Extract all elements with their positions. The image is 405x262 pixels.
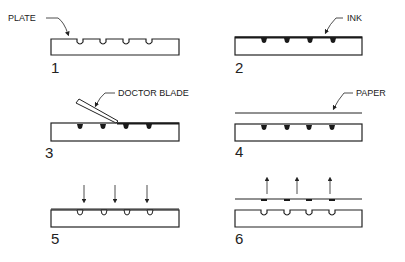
ink-wells [77,124,152,129]
plate [51,39,179,55]
plate [235,210,362,227]
lift-arrows [267,179,330,194]
step-number: 3 [45,144,53,161]
plate [235,124,362,141]
panel-2: INK 2 [235,13,362,76]
step-number: 6 [235,230,243,247]
transferring-ink-wells [77,210,153,215]
gravure-process-diagram: PLATE 1 INK 2 DOCTOR BLADE 3 [0,0,405,262]
doctor-blade-label: DOCTOR BLADE [118,88,189,98]
pressure-arrows [84,185,147,201]
panel-5: 5 [51,185,179,247]
panel-4: PAPER 4 [235,88,386,160]
step-number: 2 [235,59,243,76]
ink-wells [261,38,336,43]
plate-label: PLATE [8,13,36,23]
plate [51,123,179,141]
step-number: 1 [51,59,59,76]
ink-wells [261,125,335,130]
panel-6: 6 [235,179,362,247]
plate-leader-arrow [46,18,68,34]
paper-label: PAPER [356,88,386,98]
ink-label: INK [347,13,362,23]
plate [51,210,179,227]
plate [235,37,362,55]
doctor-blade-leader-arrow [96,93,115,105]
panel-3: DOCTOR BLADE 3 [45,88,189,161]
step-number: 4 [235,143,243,160]
step-number: 5 [51,230,59,247]
ink-layer [235,37,362,39]
panel-1: PLATE 1 [8,13,179,76]
paper-leader-arrow [334,93,353,108]
ink-leader-arrow [326,18,343,32]
